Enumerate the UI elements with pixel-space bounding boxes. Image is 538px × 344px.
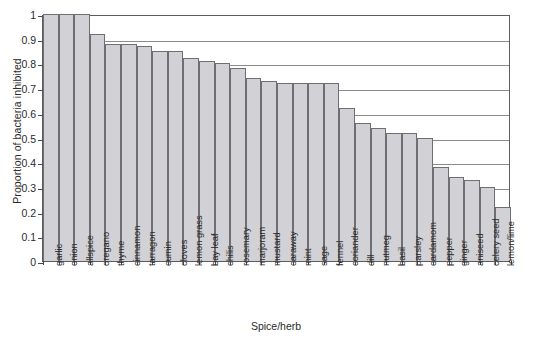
x-axis-title: Spice/herb: [42, 320, 510, 332]
bar-fennel: [324, 83, 340, 261]
x-tick-label-thyme: thyme: [116, 241, 127, 266]
bar-cumin: [152, 51, 168, 261]
x-tick-label-coriander: coriander: [350, 227, 361, 266]
x-tick-label-allspice: allspice: [85, 235, 96, 266]
x-tick-mark: [43, 261, 44, 265]
x-tick-label-lemon-lime: lemon/lime: [506, 221, 517, 266]
x-tick-label-oregano: oregano: [101, 232, 112, 266]
bar-chart-figure: Proportion of bacteria inhibited 00.10.2…: [0, 0, 538, 344]
x-tick-label-cumin: cumin: [163, 241, 174, 266]
y-tick-label-0-7: 0.7: [0, 84, 36, 94]
bar-oregano: [90, 34, 106, 261]
x-tick-label-aniseed: aniseed: [475, 233, 486, 266]
y-tick-label-0-6: 0.6: [0, 109, 36, 119]
y-tick-label-0-9: 0.9: [0, 35, 36, 45]
x-tick-label-bay-leaf: bay leaf: [210, 233, 221, 266]
y-tick-label-0-8: 0.8: [0, 59, 36, 69]
bar-cloves: [168, 51, 184, 261]
y-tick-label-0-5: 0.5: [0, 134, 36, 144]
x-tick-label-dill: dill: [366, 255, 377, 266]
bar-garlic: [43, 14, 59, 261]
x-tick-label-chilis: chilis: [225, 245, 236, 266]
x-tick-label-basil: basil: [397, 247, 408, 266]
bar-allspice: [74, 14, 90, 261]
x-tick-label-parsley: parsley: [413, 236, 424, 266]
x-tick-label-marjoram: marjoram: [257, 227, 268, 266]
x-tick-label-mustard: mustard: [272, 232, 283, 266]
y-tick-label-0-2: 0.2: [0, 208, 36, 218]
x-tick-label-celery-seed: celery seed: [491, 218, 502, 266]
bar-chilis: [215, 63, 231, 261]
y-tick-label-0-4: 0.4: [0, 158, 36, 168]
y-tick-label-0-1: 0.1: [0, 232, 36, 242]
x-tick-label-cinnamon: cinnamon: [132, 226, 143, 266]
y-tick-label-0-3: 0.3: [0, 183, 36, 193]
x-axis-tick-labels: garliconionallspiceoreganothymecinnamont…: [42, 266, 510, 318]
x-tick-label-nutmeg: nutmeg: [381, 235, 392, 266]
bar-thyme: [105, 44, 121, 261]
x-tick-label-sage: sage: [319, 246, 330, 266]
bar-series: [43, 16, 509, 261]
x-tick-label-rosemary: rosemary: [241, 227, 252, 266]
x-tick-label-onion: onion: [69, 243, 80, 266]
bar-onion: [59, 14, 75, 261]
x-tick-label-mint: mint: [303, 248, 314, 266]
x-tick-label-lemon-grass: lemon grass: [194, 215, 205, 266]
x-tick-label-garlic: garlic: [54, 244, 65, 266]
x-tick-label-fennel: fennel: [335, 241, 346, 266]
y-axis-tick-labels: 00.10.20.30.40.50.60.70.80.91: [0, 0, 40, 344]
plot-area: [42, 15, 510, 262]
x-tick-label-cloves: cloves: [179, 240, 190, 266]
x-tick-label-caraway: caraway: [288, 231, 299, 266]
x-tick-label-ginger: ginger: [459, 240, 470, 266]
y-tick-label-0: 0: [0, 257, 36, 267]
x-tick-label-tarragon: tarragon: [147, 231, 158, 266]
bar-sage: [308, 83, 324, 261]
y-tick-label-1: 1: [0, 10, 36, 20]
x-tick-label-pepper: pepper: [444, 237, 455, 266]
x-tick-label-cardamom: cardamom: [428, 222, 439, 266]
